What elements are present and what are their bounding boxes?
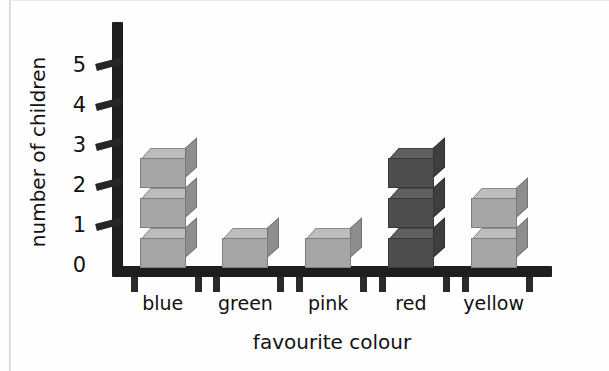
cube-front-face (388, 158, 434, 188)
x-axis-tick-red-right (443, 277, 450, 292)
page-border-top (9, 0, 609, 1)
x-axis-tick-blue-left (131, 277, 138, 292)
bar-blue-unit-1 (140, 228, 186, 258)
x-axis-tick-yellow-left (462, 277, 469, 292)
y-axis-tick-label-2: 2 (64, 173, 86, 197)
cube-side-face (267, 217, 279, 258)
cube-front-face (471, 198, 517, 228)
cube-side-face (433, 137, 445, 178)
cube-side-face (516, 177, 528, 218)
bar-red (388, 148, 434, 268)
bar-red-unit-2 (388, 188, 434, 218)
bar-blue (140, 148, 186, 268)
cube-front-face (471, 238, 517, 268)
cube-side-face (185, 137, 197, 178)
bar-pink (305, 228, 351, 268)
x-axis-tick-yellow-right (526, 277, 533, 292)
bar-green (222, 228, 268, 268)
y-axis-tick-label-3: 3 (64, 133, 86, 157)
bar-green-unit-1 (222, 228, 268, 258)
bar-blue-unit-2 (140, 188, 186, 218)
cube-side-face (516, 217, 528, 258)
cube-front-face (140, 158, 186, 188)
cube-side-face (185, 177, 197, 218)
cube-front-face (388, 238, 434, 268)
y-axis-tick-label-4: 4 (64, 93, 86, 117)
y-axis-title: number of children (26, 37, 50, 267)
x-axis-tick-green-left (213, 277, 220, 292)
y-axis-tick-label-5: 5 (64, 53, 86, 77)
cube-side-face (433, 217, 445, 258)
page-border-left (9, 0, 11, 371)
x-axis-title: favourite colour (112, 330, 552, 354)
bar-red-unit-3 (388, 148, 434, 178)
bar-yellow-unit-1 (471, 228, 517, 258)
x-axis-tick-blue-right (195, 277, 202, 292)
bar-yellow (471, 188, 517, 268)
bar-pink-unit-1 (305, 228, 351, 258)
y-axis-tick-label-0: 0 (64, 253, 86, 277)
cube-front-face (140, 238, 186, 268)
cube-front-face (222, 238, 268, 268)
x-axis-tick-pink-right (360, 277, 367, 292)
x-axis-tick-green-right (277, 277, 284, 292)
bar-yellow-unit-2 (471, 188, 517, 218)
bar-blue-unit-3 (140, 148, 186, 178)
cube-side-face (350, 217, 362, 258)
cube-front-face (388, 198, 434, 228)
cube-front-face (140, 198, 186, 228)
y-axis-tick-label-1: 1 (64, 213, 86, 237)
x-axis-label-yellow: yellow (444, 292, 544, 314)
bar-chart: 012345 bluegreenpinkredyellow number of … (0, 0, 609, 371)
cube-side-face (185, 217, 197, 258)
cube-front-face (305, 238, 351, 268)
cube-side-face (433, 177, 445, 218)
x-axis-tick-red-left (379, 277, 386, 292)
bar-red-unit-1 (388, 228, 434, 258)
x-axis-tick-pink-left (296, 277, 303, 292)
